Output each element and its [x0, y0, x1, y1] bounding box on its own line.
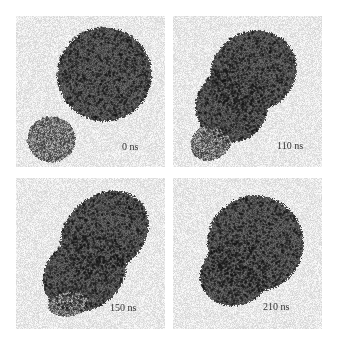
simulation-image — [16, 178, 165, 329]
simulation-image — [173, 178, 322, 329]
time-label: 110 ns — [277, 140, 303, 151]
time-label: 0 ns — [122, 141, 138, 152]
snapshot-panel-110ns: 110 ns — [173, 16, 322, 167]
time-label: 210 ns — [263, 301, 289, 312]
snapshot-panel-0ns: 0 ns — [16, 16, 165, 167]
time-label: 150 ns — [110, 302, 136, 313]
snapshot-panel-150ns: 150 ns — [16, 178, 165, 329]
snapshot-panel-210ns: 210 ns — [173, 178, 322, 329]
simulation-image — [16, 16, 165, 167]
